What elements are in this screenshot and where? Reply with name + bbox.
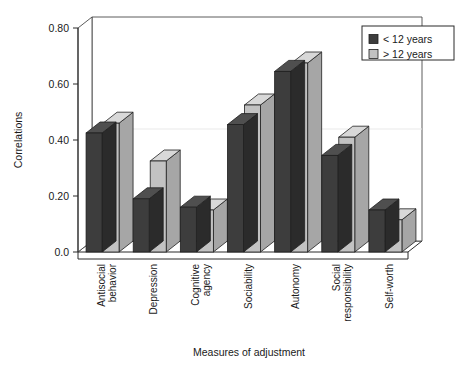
x-tick-label-line: Antisocial	[96, 264, 107, 307]
x-tick-label-4: Autonomy	[290, 264, 301, 309]
bar-lt12	[322, 144, 352, 252]
y-axis-title: Correlations	[12, 112, 24, 169]
x-tick-label-line: Sociability	[243, 264, 254, 309]
y-axis: 0.00.200.400.600.80	[49, 22, 78, 258]
x-tick-label-1: Depression	[148, 264, 159, 315]
x-tick-label-6: Self-worth	[384, 264, 395, 309]
y-tick-label-3: 0.60	[49, 78, 70, 90]
bar-lt12	[275, 60, 305, 252]
y-tick-label-4: 0.80	[49, 22, 70, 34]
legend-label: > 12 years	[383, 48, 432, 60]
x-tick-label-2: Cognitiveagency	[190, 264, 212, 306]
y-tick-label-1: 0.20	[49, 190, 70, 202]
bar-lt12	[180, 196, 210, 252]
x-tick-label-line: agency	[201, 264, 212, 296]
legend-label: < 12 years	[383, 33, 432, 45]
x-tick-label-line: responsibility	[342, 264, 353, 322]
x-tick-label-line: Autonomy	[290, 264, 301, 309]
bar-group	[275, 52, 322, 252]
x-axis-title: Measures of adjustment	[193, 346, 305, 358]
bar-lt12	[86, 122, 116, 252]
x-tick-label-line: behavior	[107, 263, 118, 302]
bar-lt12	[369, 199, 399, 252]
bar-lt12	[228, 114, 258, 252]
legend-swatch	[369, 35, 378, 44]
x-tick-label-5: Socialresponsibility	[331, 264, 353, 322]
bar-group	[180, 196, 227, 252]
x-tick-label-line: Self-worth	[384, 264, 395, 309]
chart-container: 0.00.200.400.600.80CorrelationsAntisocia…	[0, 0, 463, 372]
y-tick-label-2: 0.40	[49, 134, 70, 146]
x-tick-label-line: Depression	[148, 264, 159, 315]
x-tick-label-line: Social	[331, 264, 342, 291]
y-tick-label-0: 0.0	[54, 246, 69, 258]
x-tick-label-0: Antisocialbehavior	[96, 263, 118, 306]
bar-group	[86, 112, 133, 252]
bar-chart: 0.00.200.400.600.80CorrelationsAntisocia…	[0, 0, 463, 372]
legend-swatch	[369, 50, 378, 59]
x-tick-label-3: Sociability	[243, 264, 254, 309]
legend[interactable]: < 12 years> 12 years	[362, 26, 454, 60]
bar-lt12	[133, 188, 163, 252]
x-tick-label-line: Cognitive	[190, 264, 201, 306]
